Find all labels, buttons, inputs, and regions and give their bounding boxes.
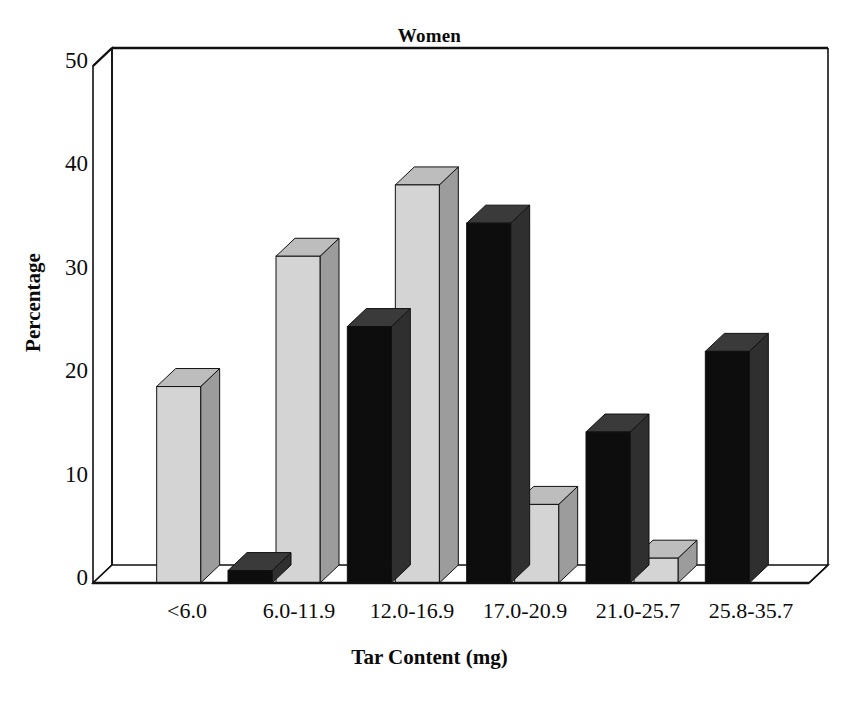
bar-chart: Women Percentage Tar Content (mg) 50 40 … xyxy=(0,0,859,709)
bar-cps1-2 xyxy=(347,309,410,583)
bar-cps1-4 xyxy=(586,414,649,583)
bar-cps2-0 xyxy=(157,369,220,583)
bar-cps1-5 xyxy=(705,333,768,583)
bar-cps2-1 xyxy=(276,238,339,583)
plot-area xyxy=(0,0,859,709)
bar-cps1-3 xyxy=(467,205,530,583)
